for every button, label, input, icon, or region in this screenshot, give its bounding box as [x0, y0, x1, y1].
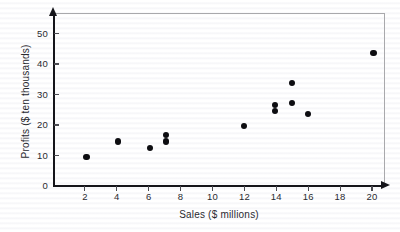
y-axis-tick	[54, 155, 59, 156]
x-axis-tick-label: 14	[263, 191, 289, 202]
y-axis-tick	[54, 124, 59, 125]
x-axis-line	[53, 185, 384, 187]
x-axis-tick-label: 2	[72, 191, 98, 202]
scatter-chart-figure: 2468101214161820 01020304050 Sales ($ mi…	[0, 0, 400, 232]
x-axis-title: Sales ($ millions)	[53, 209, 385, 220]
data-point	[163, 138, 169, 144]
data-point	[115, 138, 121, 144]
x-axis-tick-label: 16	[295, 191, 321, 202]
x-axis-tick-label: 6	[136, 191, 162, 202]
x-axis-arrowhead-icon	[381, 181, 390, 189]
y-axis-line	[53, 14, 55, 186]
y-axis-tick	[54, 94, 59, 95]
data-point	[272, 108, 278, 114]
plot-frame	[53, 13, 385, 186]
data-point	[83, 154, 89, 160]
x-axis-tick-label: 4	[104, 191, 130, 202]
data-point	[305, 111, 311, 117]
y-axis-title: Profits ($ ten thousands)	[20, 14, 31, 190]
x-axis-tick-label: 12	[231, 191, 257, 202]
y-axis-tick	[54, 33, 59, 34]
x-axis-tick-label: 8	[168, 191, 194, 202]
y-axis-arrowhead-icon	[49, 7, 57, 16]
data-point	[370, 50, 376, 56]
x-axis-tick-label: 18	[327, 191, 353, 202]
x-axis-tick-label: 20	[359, 191, 385, 202]
x-axis-tick-label: 10	[200, 191, 226, 202]
y-axis-tick	[54, 63, 59, 64]
